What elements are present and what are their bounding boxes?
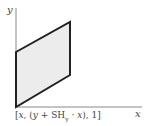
diagram-canvas xyxy=(0,0,148,126)
formula-sep: , ( xyxy=(24,110,33,120)
y-axis-label: y xyxy=(7,4,13,15)
x-axis-label: x xyxy=(135,108,141,119)
formula-close: ), 1] xyxy=(82,110,100,120)
sheared-parallelogram xyxy=(16,22,70,107)
formula-sh: + SH xyxy=(38,110,65,120)
shear-formula: [x, (y + SHy · x), 1] xyxy=(15,110,101,122)
formula-dot: · xyxy=(69,110,78,120)
